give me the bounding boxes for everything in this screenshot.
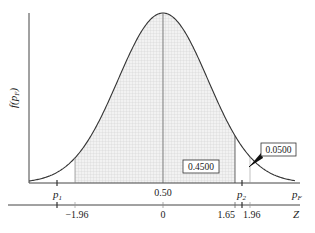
label-z-axis: Z: [293, 208, 300, 220]
label-z-196: 1.96: [243, 209, 261, 220]
normal-distribution-chart: f(pF) p1 0.50 p2 pF −1.96 0 1.65 1.96 Z …: [0, 0, 315, 233]
label-p2: p2: [236, 188, 247, 202]
shaded-area: [75, 13, 235, 183]
label-z-0: 0: [161, 209, 166, 220]
y-axis-label: f(pF): [7, 88, 21, 109]
label-z-165: 1.65: [218, 209, 236, 220]
label-z-neg196: −1.96: [65, 209, 88, 220]
label-pf: pF: [291, 188, 303, 202]
label-p1: p1: [52, 188, 62, 202]
box-center-label: 0.4500: [188, 162, 214, 172]
tail-arrow-shaft: [249, 155, 262, 167]
box-tail-label: 0.0500: [265, 145, 291, 155]
label-center: 0.50: [154, 187, 172, 198]
